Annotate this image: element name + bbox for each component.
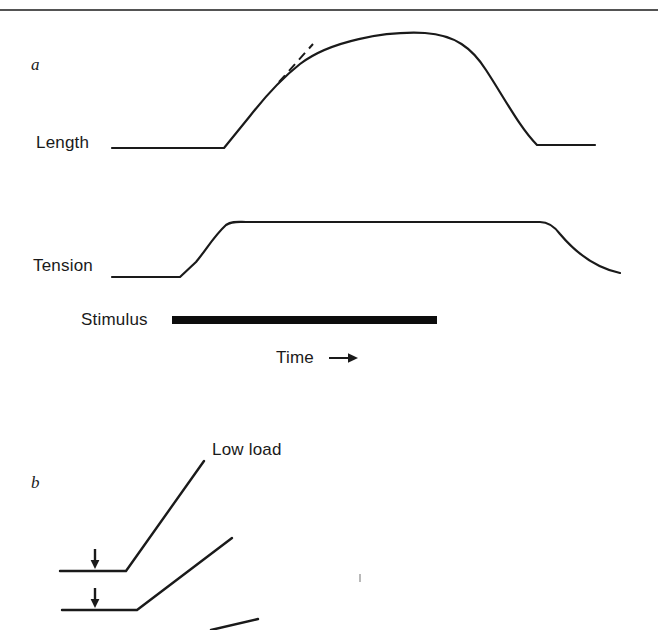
time-arrow-icon [329, 353, 358, 363]
low-load-trace [60, 461, 204, 571]
time-axis-label: Time [276, 348, 314, 368]
latency-arrow-lower-icon [91, 588, 100, 608]
tension-trace [112, 222, 620, 277]
scan-speck [359, 574, 361, 582]
length-trace-label: Length [36, 133, 89, 153]
tension-trace-label: Tension [33, 256, 93, 276]
panel-label-a: a [31, 55, 40, 75]
figure-canvas: a Length Tension Stimulus Time b Low loa… [0, 0, 658, 630]
highest-load-trace-partial [211, 619, 258, 630]
length-trace [112, 33, 595, 148]
latency-arrow-upper-icon [91, 549, 100, 569]
panel-label-b: b [31, 473, 40, 493]
higher-load-trace [62, 538, 232, 610]
tangent-dashed-line [279, 44, 313, 82]
low-load-annotation: Low load [212, 440, 282, 460]
stimulus-trace-label: Stimulus [81, 310, 148, 330]
stimulus-bar [172, 316, 437, 324]
